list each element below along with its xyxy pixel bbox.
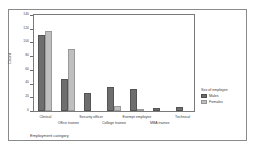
- legend-item-females: Females: [201, 100, 249, 104]
- y-axis-tick: [30, 84, 33, 85]
- bar-group: [57, 15, 80, 111]
- bar: [61, 79, 68, 111]
- y-axis-tick-value: 80: [25, 54, 29, 57]
- y-axis-tick-value: 0: [27, 109, 29, 112]
- y-axis-tick-value: 140: [23, 13, 29, 16]
- y-axis-tick-value: 100: [23, 40, 29, 43]
- y-axis-tick: [30, 29, 33, 30]
- bar-group: [103, 15, 126, 111]
- bar: [114, 106, 121, 111]
- x-axis-tick-label: College trainee: [102, 121, 126, 125]
- y-axis-tick: [30, 56, 33, 57]
- y-axis-tick: [30, 70, 33, 71]
- bar: [68, 49, 75, 111]
- legend: Sex of employee Males Females: [201, 88, 249, 106]
- y-axis-tick: [30, 97, 33, 98]
- x-axis-tick-label: Exempt employee: [123, 115, 152, 119]
- bar: [45, 31, 52, 111]
- legend-title: Sex of employee: [201, 88, 249, 92]
- y-axis-tick-label: 120: [12, 27, 29, 32]
- legend-label-females: Females: [209, 100, 223, 104]
- y-axis-tick-value: 120: [23, 27, 29, 30]
- bar-group: [34, 15, 57, 111]
- bar: [176, 107, 183, 111]
- legend-item-males: Males: [201, 94, 249, 98]
- bar: [38, 35, 45, 111]
- y-axis-tick-value: 60: [25, 68, 29, 71]
- x-axis-tick-label: Security officer: [79, 115, 103, 119]
- x-axis-tick-label: Clerical: [39, 115, 51, 119]
- y-axis-tick-label: 100: [12, 40, 29, 45]
- bar-group: [80, 15, 103, 111]
- y-axis-tick-label: 0: [12, 109, 29, 114]
- y-axis-tick-label: 20: [12, 95, 29, 100]
- legend-swatch-females: [201, 100, 207, 104]
- y-axis-title: Count: [7, 42, 12, 76]
- y-axis-tick: [30, 42, 33, 43]
- bar-series-container: [34, 15, 194, 111]
- y-axis-tick-label: 60: [12, 68, 29, 73]
- bar: [153, 108, 160, 111]
- bar: [137, 109, 144, 111]
- x-axis-title: Employment category: [30, 133, 69, 138]
- legend-label-males: Males: [209, 94, 219, 98]
- x-axis-tick-label: Office trainee: [58, 121, 79, 125]
- x-axis-tick-label: Technical: [175, 115, 190, 119]
- x-axis-tick-label: MBA trainee: [150, 121, 170, 125]
- bar-group: [148, 15, 171, 111]
- y-axis-tick-label: 80: [12, 54, 29, 59]
- y-axis-tick: [30, 111, 33, 112]
- y-axis-tick: [30, 15, 33, 16]
- y-axis-tick-label: 140: [12, 13, 29, 18]
- bar-group: [171, 15, 194, 111]
- bar-group: [125, 15, 148, 111]
- y-axis-tick-value: 20: [25, 95, 29, 98]
- y-axis-tick-value: 40: [25, 81, 29, 84]
- bar: [84, 93, 91, 112]
- legend-swatch-males: [201, 94, 207, 98]
- bar: [130, 89, 137, 111]
- y-axis-tick-label: 40: [12, 81, 29, 86]
- chart-screenshot: 020406080100120140 Count ClericalOffice …: [0, 0, 257, 153]
- bar: [107, 87, 114, 111]
